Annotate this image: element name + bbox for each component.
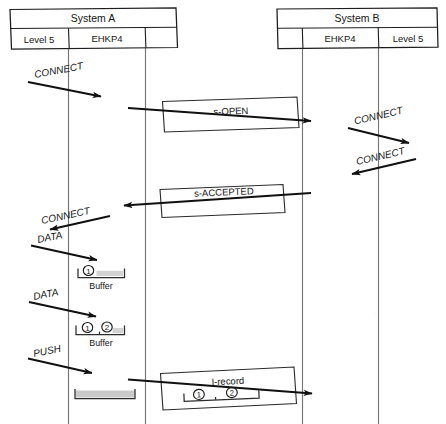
buffer-1-caption: Buffer xyxy=(89,281,112,291)
message-connect-a-down: CONNECT xyxy=(28,60,101,97)
buffer-2-item-1-number: 1 xyxy=(85,324,90,333)
system-a-header: System A Level 5 EHKP4 xyxy=(10,8,178,49)
system-b-header: System B EHKP4 Level 5 xyxy=(277,8,438,49)
system-b-col-divider-1 xyxy=(302,28,303,48)
message-i-record: I-record 1 2 xyxy=(128,367,312,410)
system-a-col-ehkp4-label: EHKP4 xyxy=(91,33,122,44)
buffer-1-item-1-number: 1 xyxy=(86,267,91,276)
message-connect-b-left: CONNECT xyxy=(352,145,416,174)
system-b-title: System B xyxy=(335,12,380,24)
message-data-2-label: DATA xyxy=(32,286,59,302)
buffer-1-fill xyxy=(97,271,124,276)
message-s-accepted: s-ACCEPTED xyxy=(124,185,311,218)
message-s-open-label: s-OPEN xyxy=(213,105,248,117)
message-data-2: DATA xyxy=(29,286,96,316)
buffer-3 xyxy=(75,389,135,399)
message-i-record-label: I-record xyxy=(211,375,244,387)
system-a-col-level5-label: Level 5 xyxy=(24,34,55,45)
message-connect-a-up: CONNECT xyxy=(40,205,110,230)
system-b-col-ehkp4-label: EHKP4 xyxy=(324,33,355,44)
message-data-1-label: DATA xyxy=(36,229,63,245)
message-data-1-arrow xyxy=(31,246,97,261)
system-b-col-divider-2 xyxy=(378,28,379,48)
message-push-arrow xyxy=(28,359,92,374)
system-a-col-divider-1 xyxy=(69,28,70,48)
buffer-2-item-2-number: 2 xyxy=(105,323,110,332)
buffer-3-fill xyxy=(76,391,135,398)
message-push-label: PUSH xyxy=(32,343,62,359)
system-b-col-level5-label: Level 5 xyxy=(393,33,424,44)
message-push: PUSH xyxy=(28,343,92,373)
message-data-2-arrow xyxy=(29,302,96,317)
buffer-2-fill xyxy=(113,328,124,333)
buffer-2-caption: Buffer xyxy=(89,338,112,348)
system-a-title: System A xyxy=(71,12,115,24)
message-data-1: DATA xyxy=(31,229,97,260)
sequence-diagram-canvas: System A Level 5 EHKP4 System B EHKP4 Le… xyxy=(0,0,446,424)
sequence-diagram-svg: System A Level 5 EHKP4 System B EHKP4 Le… xyxy=(0,0,446,424)
system-a-col-divider-2 xyxy=(145,28,146,48)
buffer-1: 1 Buffer xyxy=(78,266,125,291)
buffer-2: 1 2 Buffer xyxy=(76,322,125,348)
message-s-open: s-OPEN xyxy=(128,97,311,132)
message-connect-a-down-arrow xyxy=(28,82,101,97)
message-connect-a-down-label: CONNECT xyxy=(33,60,84,80)
